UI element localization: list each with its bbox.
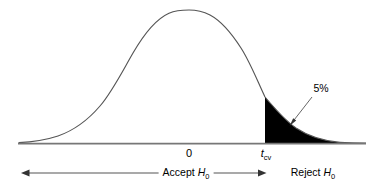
rejection-region-shading <box>265 97 366 143</box>
distribution-plot <box>0 0 366 189</box>
accept-region-arrow <box>21 169 267 176</box>
tail-callout-arrow <box>290 97 313 126</box>
tail-area-label: 5% <box>313 83 328 94</box>
reject-region-label: Reject H0 <box>287 167 339 178</box>
distribution-figure: 0 tcv 5% Accept H0 Reject H0 <box>0 0 366 189</box>
axis-label-critical-value: tcv <box>261 148 272 159</box>
distribution-curve <box>19 10 366 143</box>
accept-region-label: Accept H0 <box>159 167 214 178</box>
axis-label-zero: 0 <box>186 148 192 159</box>
